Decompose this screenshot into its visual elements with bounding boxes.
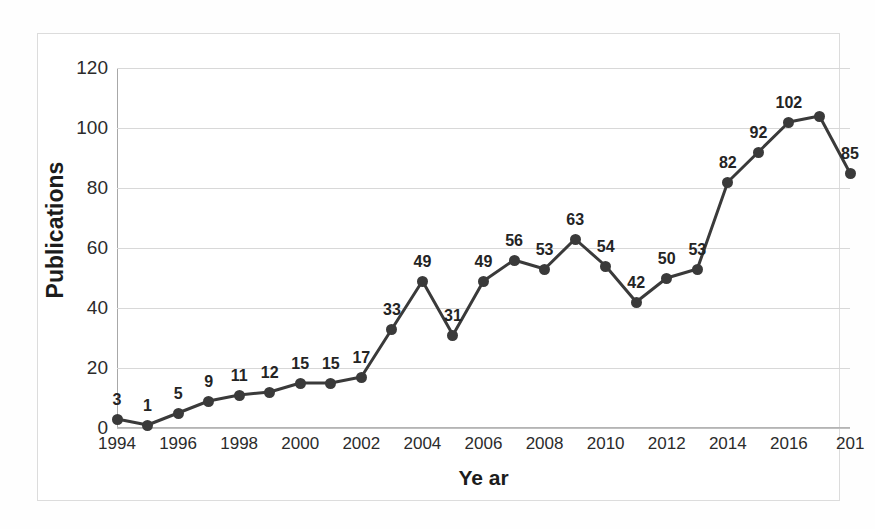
- data-point-marker[interactable]: [447, 330, 458, 341]
- x-axis-tick-label: 1994: [98, 434, 136, 454]
- x-axis-title: Ye ar: [117, 466, 850, 490]
- x-axis-tick-label: 2008: [526, 434, 564, 454]
- data-point-marker[interactable]: [509, 255, 520, 266]
- y-axis-tick-label: 80: [87, 177, 108, 199]
- data-point-marker[interactable]: [631, 297, 642, 308]
- data-point-label: 5: [174, 385, 183, 403]
- x-axis-tick-label: 2014: [709, 434, 747, 454]
- data-point-label: 92: [749, 124, 767, 142]
- x-axis-tick-label: 2004: [403, 434, 441, 454]
- data-point-label: 102: [776, 94, 803, 112]
- data-point-marker[interactable]: [478, 276, 489, 287]
- data-point-label: 12: [261, 364, 279, 382]
- data-point-label: 15: [322, 355, 340, 373]
- series-line: [117, 68, 850, 428]
- data-point-label: 33: [383, 301, 401, 319]
- y-axis-tick-label: 120: [76, 57, 108, 79]
- data-point-label: 31: [444, 307, 462, 325]
- line-chart: Publications Ye ar 020406080100120 19941…: [0, 0, 875, 529]
- y-axis-title: Publications: [40, 110, 70, 350]
- data-point-label: 53: [536, 241, 554, 259]
- data-point-label: 82: [719, 154, 737, 172]
- gridline: [117, 428, 850, 429]
- x-axis-tick-label: 2010: [587, 434, 625, 454]
- data-point-marker[interactable]: [264, 387, 275, 398]
- data-point-label: 1: [143, 397, 152, 415]
- data-point-marker[interactable]: [112, 414, 123, 425]
- data-point-label: 15: [291, 355, 309, 373]
- y-axis-tick-label: 100: [76, 117, 108, 139]
- data-point-label: 42: [627, 274, 645, 292]
- data-point-label: 63: [566, 211, 584, 229]
- y-axis-title-text: Publications: [42, 162, 69, 299]
- data-point-marker[interactable]: [570, 234, 581, 245]
- data-point-marker[interactable]: [356, 372, 367, 383]
- data-point-label: 56: [505, 232, 523, 250]
- data-point-marker[interactable]: [234, 390, 245, 401]
- y-axis-tick-label: 60: [87, 237, 108, 259]
- data-point-label: 85: [841, 145, 859, 163]
- y-axis-tick-label: 20: [87, 357, 108, 379]
- data-point-marker[interactable]: [173, 408, 184, 419]
- data-point-marker[interactable]: [295, 378, 306, 389]
- x-axis-tick-label: 1996: [159, 434, 197, 454]
- scanned-page: Publications Ye ar 020406080100120 19941…: [0, 0, 875, 529]
- data-point-marker[interactable]: [753, 147, 764, 158]
- data-point-marker[interactable]: [845, 168, 856, 179]
- data-point-marker[interactable]: [783, 117, 794, 128]
- data-point-label: 17: [352, 349, 370, 367]
- data-point-marker[interactable]: [661, 273, 672, 284]
- x-axis-tick-label: 201: [836, 434, 864, 454]
- x-axis-tick-label: 2000: [281, 434, 319, 454]
- data-point-label: 49: [475, 253, 493, 271]
- data-point-label: 50: [658, 250, 676, 268]
- data-point-marker[interactable]: [600, 261, 611, 272]
- data-point-label: 9: [204, 373, 213, 391]
- x-axis-tick-label: 2016: [770, 434, 808, 454]
- plot-area: 020406080100120 199419961998200020022004…: [117, 68, 850, 428]
- data-point-label: 3: [113, 391, 122, 409]
- y-axis-tick-label: 40: [87, 297, 108, 319]
- x-axis-tick-label: 2006: [465, 434, 503, 454]
- data-point-label: 49: [414, 253, 432, 271]
- x-axis-tick-label: 2012: [648, 434, 686, 454]
- x-axis-tick-label: 2002: [342, 434, 380, 454]
- x-axis-tick-label: 1998: [220, 434, 258, 454]
- data-point-marker[interactable]: [539, 264, 550, 275]
- data-point-marker[interactable]: [417, 276, 428, 287]
- data-point-marker[interactable]: [386, 324, 397, 335]
- data-point-label: 11: [231, 367, 248, 385]
- data-point-marker[interactable]: [722, 177, 733, 188]
- data-point-label: 54: [597, 238, 615, 256]
- data-point-marker[interactable]: [203, 396, 214, 407]
- data-point-label: 53: [688, 241, 706, 259]
- data-point-marker[interactable]: [814, 111, 825, 122]
- data-point-marker[interactable]: [142, 420, 153, 431]
- data-point-marker[interactable]: [692, 264, 703, 275]
- data-point-marker[interactable]: [325, 378, 336, 389]
